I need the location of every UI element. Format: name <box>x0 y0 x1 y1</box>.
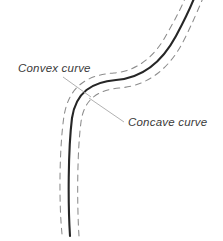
convex-curve-label: Convex curve <box>18 62 91 74</box>
curve-diagram-canvas: Convex curve Concave curve <box>0 0 223 241</box>
curve-diagram: Convex curve Concave curve <box>0 0 223 241</box>
concave-curve-label: Concave curve <box>128 116 207 128</box>
